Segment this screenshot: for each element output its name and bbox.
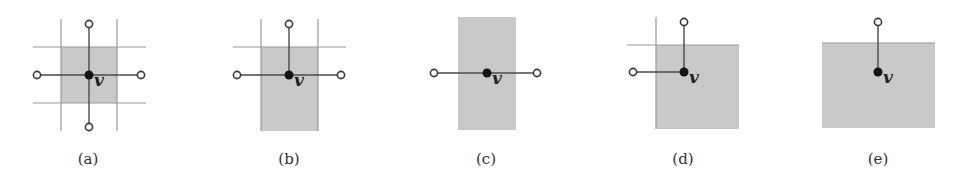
vertex-v-icon <box>285 71 294 80</box>
neighbor-vertex-icon <box>533 69 540 76</box>
panel-b: v <box>233 19 346 131</box>
region-shading <box>656 45 739 129</box>
panel-e: v <box>822 18 935 128</box>
neighbor-vertex-icon <box>85 20 92 27</box>
caption-c: (c) <box>476 150 496 168</box>
neighbor-vertex-icon <box>430 69 437 76</box>
neighbor-vertex-icon <box>874 18 881 25</box>
vertex-label: v <box>94 70 105 90</box>
caption-b: (b) <box>278 150 299 168</box>
vertex-label: v <box>883 67 894 87</box>
vertex-v-icon <box>85 71 94 80</box>
panel-c: v <box>430 17 540 130</box>
caption-d: (d) <box>672 150 693 168</box>
neighbor-vertex-icon <box>233 71 240 78</box>
vertex-v-icon <box>874 68 883 77</box>
vertex-v-icon <box>483 69 492 78</box>
panel-a: v <box>33 19 146 131</box>
neighbor-vertex-icon <box>85 123 92 130</box>
neighbor-vertex-icon <box>285 20 292 27</box>
neighbor-vertex-icon <box>629 68 636 75</box>
neighbor-vertex-icon <box>33 71 40 78</box>
vertex-label: v <box>492 68 503 88</box>
caption-a: (a) <box>78 150 99 168</box>
caption-e: (e) <box>868 150 889 168</box>
neighbor-vertex-icon <box>137 71 144 78</box>
panel-d: v <box>627 17 739 129</box>
vertex-label: v <box>294 70 305 90</box>
vertex-label: v <box>689 67 700 87</box>
neighbor-vertex-icon <box>680 18 687 25</box>
vertex-v-icon <box>680 68 689 77</box>
neighbor-vertex-icon <box>337 71 344 78</box>
